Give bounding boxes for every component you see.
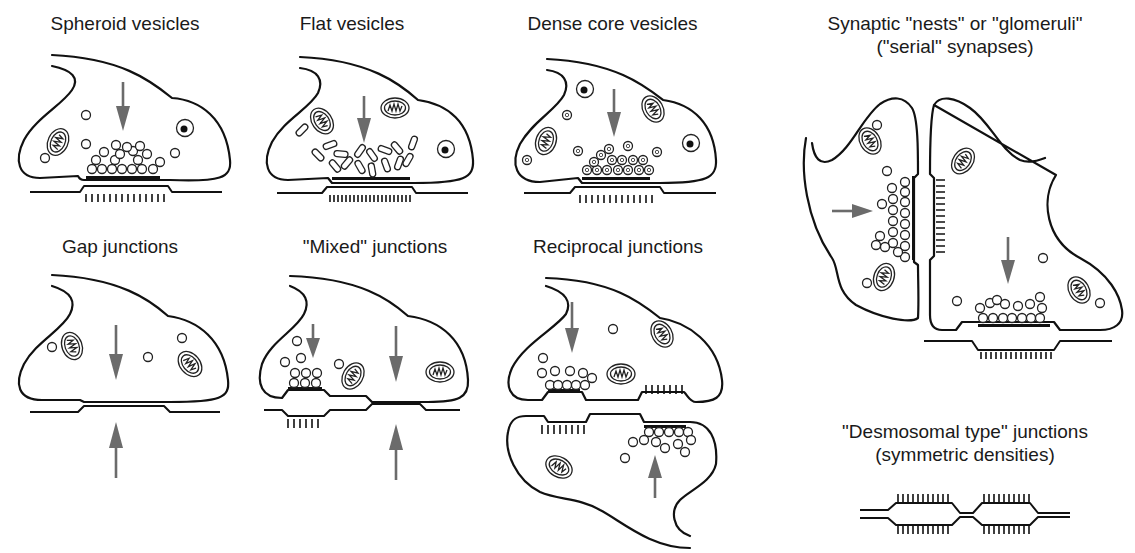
arrow-up-icon bbox=[389, 424, 403, 480]
arrow-down-icon bbox=[389, 326, 403, 382]
panel-mixed-junctions bbox=[260, 276, 468, 480]
mitochondrion-icon bbox=[637, 92, 668, 126]
mitochondrion-icon bbox=[426, 362, 454, 382]
panel-desmosomal-junctions bbox=[860, 494, 1070, 534]
arrow-down-icon bbox=[109, 325, 123, 380]
mitochondrion-icon bbox=[532, 124, 560, 157]
panel-synaptic-nests bbox=[804, 98, 1122, 359]
panel-reciprocal-junctions bbox=[507, 278, 722, 548]
panel-gap-junctions bbox=[19, 275, 228, 478]
mitochondrion-icon bbox=[381, 98, 409, 118]
arrow-down-icon bbox=[1001, 237, 1015, 284]
dense-core-vesicle-icon bbox=[438, 141, 455, 158]
mitochondrion-icon bbox=[58, 329, 86, 362]
panel-spheroid-vesicles bbox=[19, 55, 230, 202]
arrow-down-icon bbox=[306, 324, 320, 358]
panel-dense-core-vesicles bbox=[515, 59, 716, 203]
mitochondrion-icon bbox=[870, 260, 898, 293]
mitochondrion-icon bbox=[306, 104, 338, 138]
arrow-up-icon bbox=[648, 455, 662, 498]
postsynaptic-density bbox=[580, 195, 652, 203]
postsynaptic-density bbox=[330, 195, 410, 202]
dense-core-vesicle-icon bbox=[683, 135, 700, 152]
mitochondrion-icon bbox=[947, 144, 979, 178]
mitochondrion-icon bbox=[1063, 273, 1094, 307]
diagram-svg bbox=[0, 0, 1135, 553]
dense-core-vesicle-icon bbox=[577, 81, 594, 98]
postsynaptic-density bbox=[86, 194, 164, 202]
mitochondrion-icon bbox=[542, 451, 576, 482]
panel-flat-vesicles bbox=[267, 57, 473, 202]
arrow-right-icon bbox=[832, 204, 873, 218]
arrow-down-icon bbox=[607, 89, 621, 137]
synapse-diagram: Spheroid vesicles Flat vesicles Dense co… bbox=[0, 0, 1135, 553]
arrow-down-icon bbox=[357, 96, 371, 143]
flat-vesicle-cluster bbox=[295, 123, 418, 177]
arrow-up-icon bbox=[109, 422, 123, 478]
mitochondrion-icon bbox=[173, 347, 206, 381]
mitochondrion-icon bbox=[607, 364, 635, 384]
arrow-down-icon bbox=[116, 82, 130, 131]
dense-core-vesicle-icon bbox=[177, 120, 194, 137]
